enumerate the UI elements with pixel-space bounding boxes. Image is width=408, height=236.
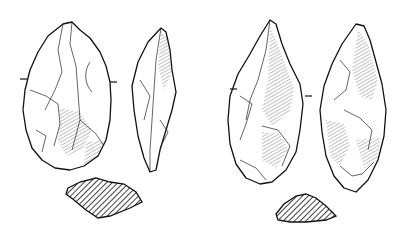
handaxe-2-cross-section xyxy=(276,194,336,222)
handaxe-1-profile xyxy=(132,28,176,172)
handaxe-2-profile xyxy=(320,24,386,192)
illustration xyxy=(0,0,408,236)
handaxe-1-cross-section xyxy=(66,178,142,218)
handaxe-2-face xyxy=(228,20,312,184)
handaxe-1-face xyxy=(20,22,117,170)
